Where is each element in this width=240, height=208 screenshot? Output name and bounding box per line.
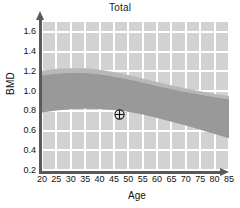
reference-band (42, 22, 229, 170)
y-tick-1.4: 1.4 (4, 47, 36, 56)
plot-area (42, 22, 229, 170)
y-tick-1.6: 1.6 (4, 27, 36, 36)
y-tick-0.4: 0.4 (4, 146, 36, 155)
y-axis-arrow-icon (36, 11, 44, 20)
patient-measurement-marker-icon[interactable] (114, 109, 125, 120)
x-tick-85: 85 (219, 175, 239, 184)
y-tick-1.2: 1.2 (4, 67, 36, 76)
y-axis-line (39, 18, 42, 174)
y-tick-0.6: 0.6 (4, 126, 36, 135)
y-tick-0.8: 0.8 (4, 106, 36, 115)
band-main-dark (42, 73, 229, 139)
y-tick-1.0: 1.0 (4, 87, 36, 96)
x-axis-label: Age (40, 190, 234, 201)
chart-root: Total BMD Age 0.20.40.60.81.01.21.41.6 2… (0, 0, 240, 208)
y-tick-0.2: 0.2 (4, 166, 36, 175)
